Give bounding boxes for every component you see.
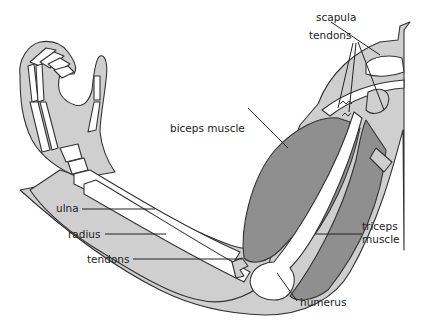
arm-anatomy-diagram: scapula tendons biceps muscle ulna radiu… <box>0 0 424 327</box>
label-tendons-bottom: tendons <box>87 253 129 265</box>
label-scapula: scapula <box>316 11 356 23</box>
label-humerus: humerus <box>300 296 346 308</box>
label-triceps-line2: muscle <box>362 233 400 245</box>
label-biceps-muscle: biceps muscle <box>170 122 245 134</box>
label-radius: radius <box>68 228 100 240</box>
scapula-bone <box>366 56 404 76</box>
label-tendons-top: tendons <box>309 29 351 41</box>
label-ulna: ulna <box>56 202 79 214</box>
label-triceps-line1: triceps <box>362 220 398 232</box>
biceps-leader <box>248 108 288 148</box>
